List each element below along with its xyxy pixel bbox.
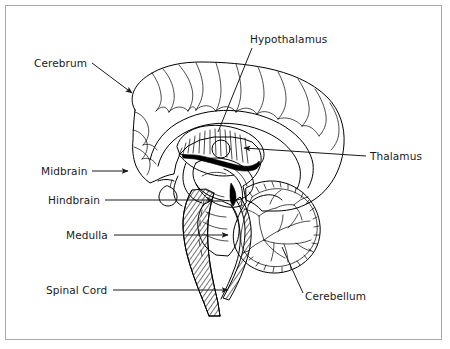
corpus-callosum-group (177, 125, 264, 176)
sulcus-parietal-2 (278, 72, 286, 119)
sulcus-parietal-1 (257, 67, 264, 114)
leader-cerebrum (92, 63, 132, 93)
brain-diagram: Cerebrum Hypothalamus Thalamus Midbrain … (0, 0, 450, 349)
label-medulla: Medulla (66, 229, 108, 241)
frontal-pole-fold-1 (135, 112, 149, 145)
sulcus-central-1 (216, 63, 221, 111)
label-cerebrum: Cerebrum (34, 57, 87, 69)
leader-thalamus (244, 148, 366, 156)
pituitary-stalk (170, 180, 172, 187)
frontal-pole-fold-3 (134, 147, 150, 175)
brainstem-hatch-group (183, 189, 251, 316)
sulcus-frontal-2 (163, 69, 174, 112)
leader-cerebellum (282, 247, 303, 293)
sulcus-occipital-1 (298, 79, 309, 126)
label-midbrain: Midbrain (41, 165, 87, 177)
gyrus-crown-1 (156, 107, 169, 112)
sulcus-central-2 (236, 64, 241, 112)
label-thalamus: Thalamus (369, 150, 422, 162)
cerebellum-arbor-vitae (244, 190, 311, 262)
label-hypothalamus: Hypothalamus (250, 33, 327, 45)
leader-lines (92, 48, 366, 293)
gyrus-crown-3 (188, 107, 196, 111)
brainstem-posterior-hatch (223, 197, 251, 300)
sulcus-frontal-3 (179, 65, 193, 111)
sulcus-occipital-2 (315, 89, 326, 136)
sulcus-frontal-4 (196, 63, 203, 110)
leader-hypothalamus (218, 48, 252, 132)
sulcus-frontal-1 (152, 73, 161, 111)
cerebrum-cortex-group (132, 62, 344, 211)
figure-root: Cerebrum Hypothalamus Thalamus Midbrain … (0, 0, 450, 349)
gyrus-crown-9 (302, 126, 319, 136)
label-hindbrain: Hindbrain (48, 194, 100, 206)
label-cerebellum: Cerebellum (305, 290, 366, 302)
sulcus-occipital-3 (330, 103, 339, 150)
label-spinal-cord: Spinal Cord (46, 284, 107, 296)
cerebrum-outline (132, 62, 344, 211)
midbrain-aqueduct (230, 183, 236, 206)
gyrus-crown-4 (196, 106, 216, 111)
